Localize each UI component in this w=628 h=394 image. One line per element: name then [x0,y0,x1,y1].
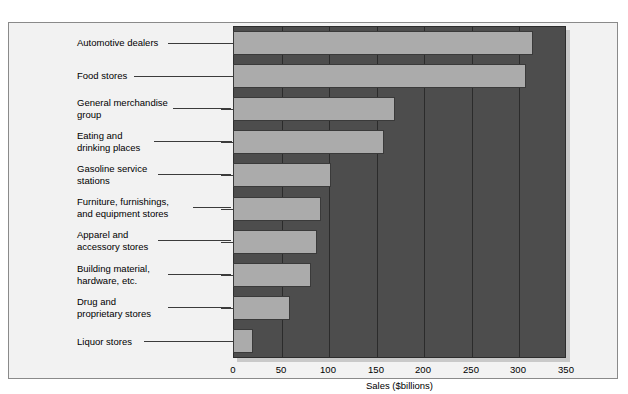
bar [233,97,395,121]
category-label: Building material, hardware, etc. [77,263,150,286]
leader-tick [221,76,233,77]
leader-tick [221,308,233,309]
chart-figure: Automotive dealersFood storesGeneral mer… [0,0,628,394]
x-tick-label: 200 [403,364,443,375]
x-axis-title: Sales ($billions) [233,380,566,391]
x-tick-label: 50 [261,364,301,375]
x-tick-label: 300 [498,364,538,375]
figure-frame: Automotive dealersFood storesGeneral mer… [8,22,618,379]
leader-tick [221,109,233,110]
leader-line [144,341,231,342]
bar [233,31,533,55]
category-label: Furniture, furnishings, and equipment st… [77,196,169,219]
leader-tick [221,43,233,44]
x-tick-label: 100 [308,364,348,375]
category-label: Apparel and accessory stores [77,229,148,252]
x-tick-label: 0 [213,364,253,375]
bar [233,329,253,353]
category-label: Drug and proprietary stores [77,296,151,319]
leader-tick [221,242,233,243]
leader-tick [221,341,233,342]
category-label: Liquor stores [77,336,132,348]
x-tick-label: 350 [546,364,586,375]
leader-line [134,76,231,77]
bar [233,296,290,320]
x-tick-label: 250 [451,364,491,375]
leader-line [193,207,231,208]
bar [233,163,331,187]
bar [233,197,321,221]
bar [233,130,384,154]
leader-tick [221,142,233,143]
leader-tick [221,175,233,176]
bar [233,64,526,88]
leader-line [158,240,231,241]
category-label: Automotive dealers [77,37,158,49]
leader-tick [221,209,233,210]
category-label: General merchandise group [77,97,168,120]
x-tick-label: 150 [356,364,396,375]
leader-tick [221,275,233,276]
bar [233,230,317,254]
category-label: Food stores [77,70,127,82]
category-label: Eating and drinking places [77,130,140,153]
bar [233,263,311,287]
category-label: Gasoline service stations [77,163,147,186]
